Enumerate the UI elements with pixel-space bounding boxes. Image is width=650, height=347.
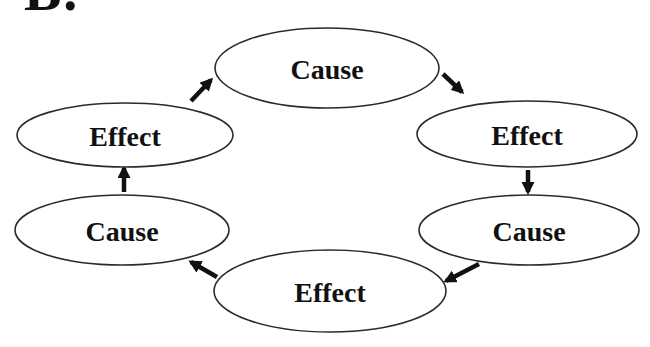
figure-panel: B. CauseEffectCauseEffectCauseEffect xyxy=(0,0,650,347)
node-label-right-effect: Effect xyxy=(491,120,563,151)
arrow-right-cause-to-bottom-effect xyxy=(446,264,479,281)
node-label-left-effect: Effect xyxy=(89,121,161,152)
arrow-left-effect-to-top-cause xyxy=(191,80,211,101)
node-label-left-cause: Cause xyxy=(85,216,158,247)
node-label-right-cause: Cause xyxy=(492,216,565,247)
node-label-bottom-effect: Effect xyxy=(294,277,366,308)
arrow-bottom-effect-to-left-cause xyxy=(191,262,217,277)
cycle-diagram: CauseEffectCauseEffectCauseEffect xyxy=(0,0,650,347)
arrow-top-cause-to-right-effect xyxy=(443,74,462,92)
node-label-top-cause: Cause xyxy=(290,54,363,85)
